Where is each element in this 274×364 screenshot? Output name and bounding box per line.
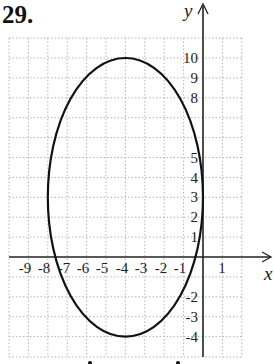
ellipse-graph: x y -9 -8 -7 -6 -5 -4 -3 -2 -1 1 10 9 8 … bbox=[0, 0, 274, 364]
y-tick: 3 bbox=[191, 189, 199, 205]
y-tick: -3 bbox=[186, 309, 199, 325]
y-tick: -4 bbox=[186, 329, 199, 345]
grid bbox=[9, 38, 242, 357]
y-axis-label: y bbox=[182, 0, 193, 21]
x-axis-label: x bbox=[263, 263, 273, 284]
x-tick: -6 bbox=[77, 260, 90, 276]
x-tick: -9 bbox=[19, 260, 32, 276]
x-tick: -4 bbox=[116, 260, 129, 276]
y-tick: 4 bbox=[191, 170, 199, 186]
y-tick: 1 bbox=[191, 229, 199, 245]
x-tick: -5 bbox=[96, 260, 109, 276]
x-tick: -2 bbox=[155, 260, 168, 276]
x-tick: -8 bbox=[38, 260, 51, 276]
y-tick: -2 bbox=[186, 289, 199, 305]
y-tick: 8 bbox=[191, 90, 199, 106]
x-tick: -1 bbox=[174, 260, 187, 276]
x-tick: 1 bbox=[218, 260, 226, 276]
x-tick: -3 bbox=[135, 260, 148, 276]
y-tick: 9 bbox=[191, 70, 199, 86]
y-tick: 10 bbox=[183, 50, 198, 66]
y-tick: 2 bbox=[191, 209, 199, 225]
y-tick: 5 bbox=[191, 150, 199, 166]
